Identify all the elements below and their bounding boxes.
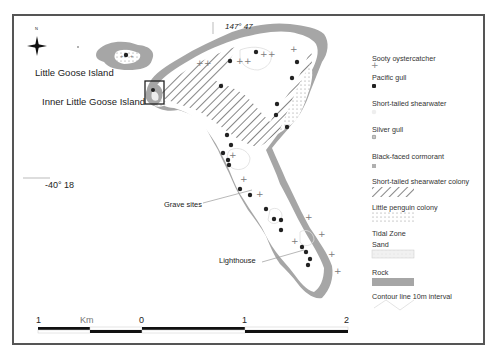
rock-swatch — [372, 278, 414, 286]
svg-text:+: + — [240, 174, 248, 184]
legend-penguin-colony: Little penguin colony — [372, 203, 438, 212]
svg-text:+: + — [229, 150, 237, 160]
svg-text:+: + — [328, 249, 336, 259]
scale-bar — [38, 327, 348, 333]
svg-text:+: + — [236, 56, 244, 66]
legend-contour: Contour line 10m interval — [372, 292, 452, 301]
label-grave-sites: Grave sites — [164, 200, 202, 209]
scale-tick-0: 0 — [139, 315, 144, 325]
svg-text:+: + — [318, 229, 326, 239]
legend-sand: Sand — [372, 240, 389, 249]
latitude-label: -40° 18 — [45, 180, 74, 190]
svg-text:+: + — [260, 49, 268, 59]
scale-tick-left-1: 1 — [36, 315, 41, 325]
longitude-label: 147° 47 — [225, 22, 253, 31]
north-arrow-icon — [27, 36, 47, 56]
legend-rock: Rock — [372, 268, 388, 277]
sand-swatch — [372, 250, 414, 258]
svg-text:+: + — [130, 53, 134, 59]
legend-short-tailed-shearwater: Short-tailed shearwater — [372, 99, 446, 108]
svg-text:+: + — [256, 189, 264, 199]
legend-shearwater-colony: Short-tailed shearwater colony — [372, 177, 469, 186]
penguin-colony-swatch — [372, 212, 414, 222]
shearwater-colony-swatch — [372, 187, 414, 197]
contour-swatch — [374, 300, 414, 310]
legend-tidal-zone-heading: Tidal Zone — [372, 229, 406, 238]
black-faced-cormorant-icon — [372, 164, 376, 168]
svg-text:+: + — [196, 58, 204, 68]
svg-text:+: + — [290, 44, 298, 54]
scale-unit: Km — [80, 315, 94, 325]
svg-text:+: + — [268, 49, 276, 59]
north-label: N — [35, 26, 38, 31]
svg-text:+: + — [305, 212, 313, 222]
label-inner-little-goose-island: Inner Little Goose Island — [42, 96, 145, 107]
silver-gull-icon — [371, 134, 377, 140]
svg-text:+: + — [204, 58, 212, 68]
pacific-gull-icon — [372, 84, 376, 88]
scale-tick-2: 2 — [344, 315, 349, 325]
label-little-goose-island: Little Goose Island — [35, 67, 114, 78]
label-lighthouse: Lighthouse — [219, 256, 256, 265]
svg-text:+: + — [120, 53, 124, 59]
svg-text:+: + — [291, 236, 299, 246]
scale-tick-1: 1 — [242, 315, 247, 325]
legend-black-faced-cormorant: Black-faced cormorant — [372, 152, 444, 161]
legend-pacific-gull: Pacific gull — [372, 73, 406, 82]
svg-text:+: + — [334, 266, 342, 276]
legend-silver-gull: Silver gull — [372, 125, 403, 134]
legend-sooty-oystercatcher: Sooty oystercatcher — [372, 54, 436, 63]
short-tailed-shearwater-icon — [372, 110, 377, 115]
little-goose-island: + + — [77, 42, 153, 70]
svg-text:+: + — [244, 56, 252, 66]
